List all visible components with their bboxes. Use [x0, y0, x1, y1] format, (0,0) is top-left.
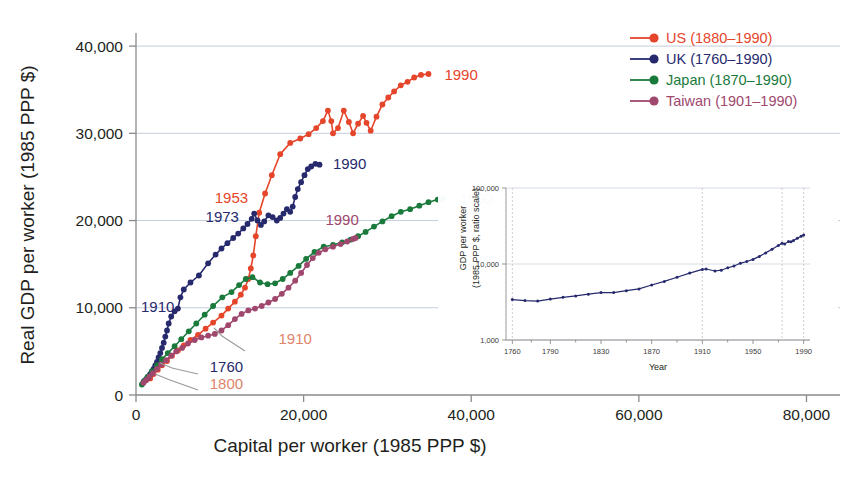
data-point [186, 328, 192, 334]
data-point [416, 203, 422, 209]
inset-data-point [777, 244, 780, 247]
legend-label: US (1880–1990) [666, 30, 772, 46]
inset-x-tick-label: 1790 [542, 347, 559, 356]
legend-label: UK (1760–1990) [666, 51, 772, 67]
inset-data-point [752, 258, 755, 261]
data-point [219, 294, 225, 300]
inset-chart: 1,00010,000100,0001760179018301870191019… [438, 178, 838, 376]
data-point [380, 102, 386, 108]
inset-data-point [764, 251, 767, 254]
data-point [380, 219, 386, 225]
data-point [297, 136, 303, 142]
legend-label: Japan (1870–1990) [666, 72, 792, 88]
inset-data-point [688, 272, 691, 275]
data-point [335, 125, 341, 131]
data-point [346, 119, 352, 125]
inset-data-point [524, 299, 527, 302]
data-point [355, 121, 361, 127]
figure-root: 010,00020,00030,00040,000020,00040,00060… [0, 0, 847, 484]
annotation-1910: 1910 [278, 330, 311, 347]
data-point [181, 287, 187, 293]
data-point [350, 130, 356, 136]
data-point [175, 306, 181, 312]
data-point [202, 312, 208, 318]
legend-marker [649, 96, 658, 105]
inset-x-tick-label: 1830 [593, 347, 610, 356]
data-point [196, 273, 202, 279]
data-point [236, 282, 242, 288]
inset-y-tick-label: 1,000 [480, 336, 499, 345]
data-point [242, 285, 248, 291]
y-tick-label: 30,000 [76, 125, 124, 142]
data-point [225, 240, 231, 246]
data-point [163, 357, 169, 363]
inset-data-point [536, 300, 539, 303]
inset-y-axis-title-line2: (1985 PPP $, ratio scale) [471, 188, 481, 288]
data-point [239, 311, 245, 317]
x-tick-label: 40,000 [448, 406, 496, 423]
inset-x-tick-label: 1760 [504, 347, 521, 356]
data-point [341, 108, 347, 114]
data-point [265, 281, 271, 287]
data-point [225, 306, 231, 312]
data-point [154, 366, 160, 372]
data-point [249, 216, 255, 222]
x-tick-label: 60,000 [615, 406, 663, 423]
annotation-1953: 1953 [215, 189, 248, 206]
data-point [157, 350, 163, 356]
data-point [426, 199, 432, 205]
data-point [173, 349, 179, 355]
inset-y-axis-title-line1: GDP per worker [458, 206, 468, 270]
data-point [251, 211, 257, 217]
y-axis-title: Real GDP per worker (1985 PPP $) [17, 65, 38, 364]
data-point [225, 322, 231, 328]
data-point [229, 289, 235, 295]
inset-data-point [733, 265, 736, 268]
annotation-1990: 1990 [333, 155, 366, 172]
data-point [287, 209, 293, 215]
data-point [262, 191, 268, 197]
data-point [219, 246, 225, 252]
data-point [166, 321, 172, 327]
x-tick-label: 20,000 [280, 406, 328, 423]
inset-data-point [781, 242, 784, 245]
inset-data-point [701, 268, 704, 271]
inset-data-point [720, 269, 723, 272]
data-point [292, 278, 298, 284]
data-point [188, 280, 194, 286]
data-point [371, 224, 377, 230]
legend-marker [649, 33, 658, 42]
data-point [185, 341, 191, 347]
data-point [279, 291, 285, 297]
x-axis-title: Capital per worker (1985 PPP $) [213, 435, 486, 456]
data-point [306, 131, 312, 137]
annotation-1760: 1760 [210, 358, 243, 375]
data-point [330, 244, 336, 250]
annotation-1800: 1800 [210, 375, 243, 392]
inset-data-point [714, 270, 717, 273]
data-point [161, 340, 167, 346]
data-point [385, 95, 391, 101]
data-point [325, 108, 331, 114]
data-point [418, 72, 424, 78]
data-point [298, 179, 304, 185]
inset-data-point [796, 237, 799, 240]
data-point [364, 120, 370, 126]
data-point [360, 113, 366, 119]
inset-data-point [574, 294, 577, 297]
inset-data-point [676, 276, 679, 279]
data-point [219, 313, 225, 319]
data-point [272, 280, 278, 286]
data-point [310, 255, 316, 261]
data-point [317, 162, 323, 168]
inset-data-point [587, 293, 590, 296]
data-point [235, 231, 241, 237]
inset-data-point [612, 291, 615, 294]
data-point [193, 321, 199, 327]
data-point [269, 172, 275, 178]
inset-data-point [800, 235, 803, 238]
data-point [407, 206, 413, 212]
data-point [252, 306, 258, 312]
data-point [253, 233, 259, 239]
data-point [316, 250, 322, 256]
